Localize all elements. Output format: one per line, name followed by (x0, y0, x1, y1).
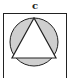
circle-triangle-diagram (0, 0, 70, 78)
